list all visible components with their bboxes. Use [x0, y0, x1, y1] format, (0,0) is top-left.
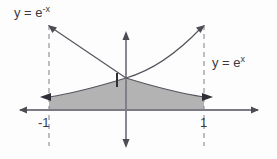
x-tick-label-positive-one: 1 — [200, 116, 207, 129]
x-axis-right-arrowhead — [251, 107, 259, 114]
x-tick-label-negative-one: -1 — [38, 116, 50, 129]
y-axis-top-arrowhead — [123, 31, 130, 40]
y-axis-bottom-arrowhead — [123, 139, 130, 148]
growth-label-lhs: y = e — [212, 55, 241, 70]
exponential-area-figure: y = e-x y = ex -1 1 — [0, 0, 277, 159]
decay-label-exponent: -x — [43, 4, 51, 14]
region-right-endpoint-arrowhead — [202, 93, 213, 101]
region-left-endpoint-arrowhead — [40, 93, 51, 101]
curve-exponential-growth — [126, 28, 201, 78]
exponential-growth-label: y = ex — [212, 56, 245, 69]
exponential-decay-label: y = e-x — [14, 6, 50, 19]
decay-label-lhs: y = e — [14, 5, 43, 20]
x-axis-left-arrowhead — [19, 107, 27, 114]
curve-exponential-decay — [52, 28, 126, 78]
growth-label-exponent: x — [241, 54, 246, 64]
figure-canvas — [0, 0, 277, 159]
